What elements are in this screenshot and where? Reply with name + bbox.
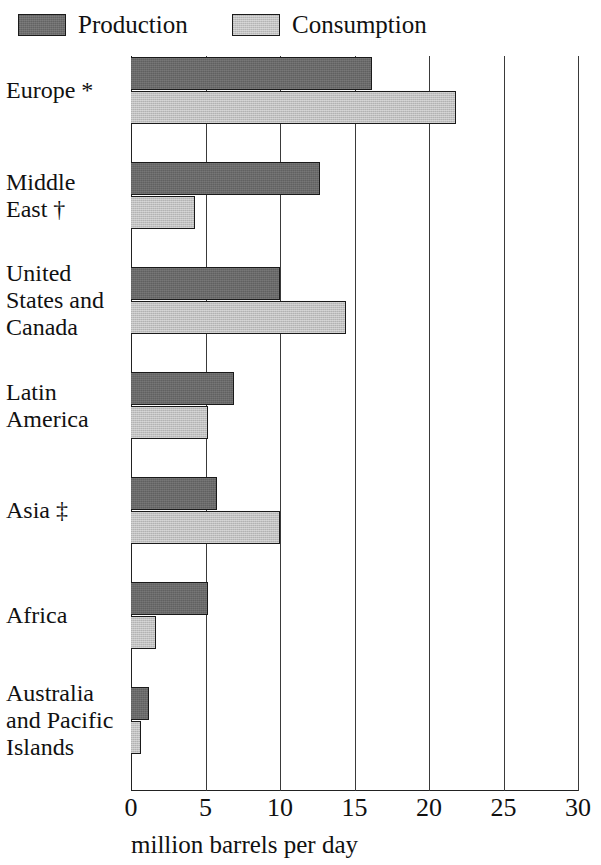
bar-group (131, 161, 578, 266)
x-tick-10: 10 (250, 795, 310, 821)
legend-swatch-consumption-icon (232, 14, 280, 36)
bar-production (131, 162, 320, 195)
category-label: MiddleEast † (6, 169, 128, 223)
x-tick-30: 30 (548, 795, 601, 821)
bar-group (131, 266, 578, 371)
category-label: Europe * (6, 77, 128, 104)
category-label: Australiaand PacificIslands (6, 680, 128, 761)
category-label: Asia ‡ (6, 497, 128, 524)
bar-consumption (131, 406, 208, 439)
gridline-30 (578, 56, 579, 791)
bar-production (131, 372, 234, 405)
bar-group (131, 686, 578, 791)
category-label-line: Middle (6, 169, 128, 196)
bar-production (131, 687, 149, 720)
bar-production (131, 582, 208, 615)
category-label-line: Europe * (6, 77, 128, 104)
legend-label-consumption: Consumption (292, 12, 427, 37)
chart-plot-area (131, 56, 578, 791)
x-tick-20: 20 (399, 795, 459, 821)
bar-production (131, 267, 280, 300)
bar-production (131, 477, 217, 510)
legend-item-consumption: Consumption (232, 12, 427, 37)
category-label-line: States and (6, 287, 128, 314)
category-label-line: Canada (6, 314, 128, 341)
legend-item-production: Production (18, 12, 188, 37)
bar-consumption (131, 721, 141, 754)
bar-consumption (131, 301, 346, 334)
bar-consumption (131, 91, 456, 124)
x-tick-0: 0 (101, 795, 161, 821)
x-axis-title: million barrels per day (131, 831, 358, 858)
category-label-line: Islands (6, 734, 128, 761)
category-label-line: East † (6, 196, 128, 223)
bar-group (131, 371, 578, 476)
category-label-line: America (6, 406, 128, 433)
bar-group (131, 476, 578, 581)
bar-consumption (131, 196, 195, 229)
legend-swatch-production-icon (18, 14, 66, 36)
x-tick-25: 25 (474, 795, 534, 821)
bar-consumption (131, 511, 280, 544)
category-label-line: Australia (6, 680, 128, 707)
category-label-line: Africa (6, 602, 128, 629)
category-label: Africa (6, 602, 128, 629)
bar-consumption (131, 616, 156, 649)
category-label-line: United (6, 260, 128, 287)
bar-group (131, 56, 578, 161)
category-label: UnitedStates andCanada (6, 260, 128, 341)
bar-group (131, 581, 578, 686)
category-label-line: Latin (6, 379, 128, 406)
bar-production (131, 57, 372, 90)
chart-legend: Production Consumption (0, 0, 601, 48)
legend-label-production: Production (78, 12, 188, 37)
category-label: LatinAmerica (6, 379, 128, 433)
category-label-line: and Pacific (6, 707, 128, 734)
x-tick-15: 15 (325, 795, 385, 821)
category-label-line: Asia ‡ (6, 497, 128, 524)
x-tick-5: 5 (176, 795, 236, 821)
